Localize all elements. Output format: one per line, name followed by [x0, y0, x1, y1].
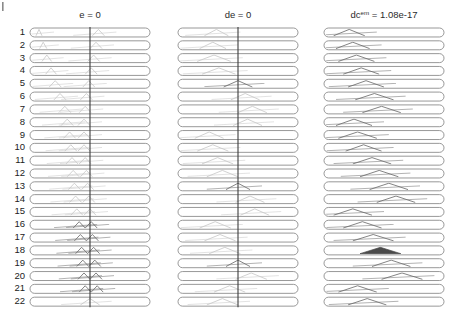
multi-panel-trace-figure: e = 0 de = 0 dcem = 1.08e-17 12345678910… — [0, 0, 458, 318]
row-label-5: 5 — [20, 77, 25, 88]
panel-title-dcem-prefix: dc — [351, 9, 361, 20]
panel-title-e: e = 0 — [79, 9, 100, 20]
row-label-10: 10 — [14, 141, 25, 152]
row-label-13: 13 — [14, 180, 25, 191]
figure-background — [0, 0, 458, 318]
row-label-3: 3 — [20, 52, 25, 63]
row-label-22: 22 — [14, 295, 25, 306]
row-label-12: 12 — [14, 167, 25, 178]
row-label-21: 21 — [14, 282, 25, 293]
row-label-15: 15 — [14, 205, 25, 216]
row-label-19: 19 — [14, 257, 25, 268]
corner-tick-mark — [2, 2, 4, 11]
row-label-8: 8 — [20, 116, 25, 127]
row-label-6: 6 — [20, 90, 25, 101]
panel-title-dcem-superscript: em — [361, 9, 370, 16]
panel-title-dcem-suffix: = 1.08e-17 — [369, 9, 417, 20]
row-label-7: 7 — [20, 103, 25, 114]
row-label-11: 11 — [15, 154, 25, 165]
row-label-17: 17 — [14, 231, 25, 242]
row-label-4: 4 — [20, 64, 25, 75]
row-label-16: 16 — [14, 218, 25, 229]
row-label-1: 1 — [20, 26, 25, 37]
row-label-14: 14 — [14, 193, 25, 204]
row-label-9: 9 — [20, 129, 25, 140]
row-label-18: 18 — [14, 244, 25, 255]
row-label-20: 20 — [14, 270, 25, 281]
panel-title-de: de = 0 — [225, 9, 252, 20]
row-label-2: 2 — [20, 39, 25, 50]
